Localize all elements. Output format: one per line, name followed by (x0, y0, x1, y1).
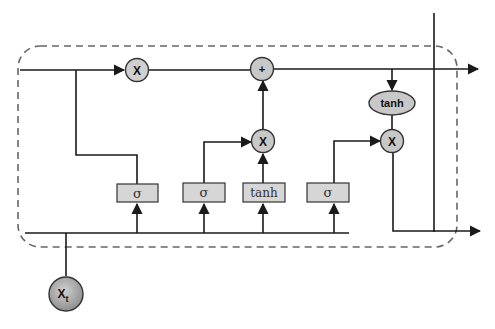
forget-gate-label: σ (133, 186, 142, 201)
input-gate-to-multiply-line (204, 142, 251, 184)
output-gate: σ (307, 183, 349, 202)
candidate-gate: tanh (243, 183, 285, 202)
output-tanh-node: tanh (369, 91, 415, 115)
cell-add-label: + (259, 63, 265, 75)
forget-multiply-label: X (133, 64, 141, 78)
input-gate-label: σ (200, 185, 209, 200)
lstm-diagram: X + X tanh X σ σ tanh σ Xt (0, 0, 495, 329)
input-xt-label: X (57, 287, 65, 301)
forget-gate: σ (117, 184, 158, 202)
hidden-to-forget-line (76, 70, 137, 184)
input-multiply-node: X (252, 130, 275, 153)
output-gate-to-multiply-line (334, 141, 380, 184)
candidate-gate-label: tanh (250, 186, 278, 200)
output-gate-label: σ (324, 185, 333, 200)
forget-multiply-node: X (126, 59, 149, 82)
input-xt-node: Xt (49, 277, 83, 311)
input-xt-subscript: t (66, 294, 69, 304)
output-multiply-node: X (381, 130, 404, 153)
output-tanh-label: tanh (380, 97, 404, 109)
input-gate: σ (183, 183, 225, 202)
hidden-state-out-line (393, 152, 480, 231)
output-multiply-label: X (388, 135, 396, 149)
cell-add-node: + (251, 58, 274, 81)
input-multiply-label: X (259, 135, 267, 149)
